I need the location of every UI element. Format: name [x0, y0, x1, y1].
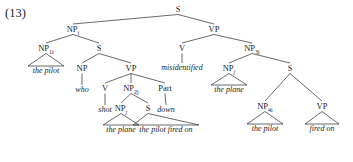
node-label-NP-1i: NP1i	[38, 44, 54, 55]
node-index: i	[78, 30, 80, 36]
node-label-VP-rel: VP	[126, 64, 137, 73]
node-label-V-shot: V	[102, 84, 108, 93]
node-label-NP-3j: NP3j	[244, 44, 260, 55]
node-category: S	[146, 103, 151, 113]
node-category: VP	[209, 24, 220, 34]
tree-branch	[252, 54, 290, 64]
leaf-leaf-the-pilot-1: the pilot	[33, 67, 59, 75]
tree-branch	[121, 94, 131, 104]
node-category: Part	[158, 83, 172, 93]
node-label-NP-j2: NPj	[115, 104, 128, 115]
leaf-leaf-the-pilot-2: the pilot	[252, 125, 278, 133]
node-label-VP-top: VP	[209, 25, 220, 34]
leaf-leaf-misidentified: misidentified	[161, 64, 202, 72]
tree-branch-canvas	[0, 0, 353, 162]
stem-lines	[82, 54, 182, 106]
node-label-S-root: S	[176, 5, 181, 14]
node-label-NP-j: NPj	[223, 64, 236, 75]
node-category: NP	[67, 24, 78, 34]
tree-branch	[73, 15, 178, 25]
leaf-leaf-the-pilot-fired-on: the pilot fired on	[139, 126, 192, 134]
tree-branch	[290, 74, 322, 102]
node-label-NP-i: NPi	[67, 25, 80, 36]
node-category: NP	[115, 103, 126, 113]
node-label-NP-4i: NP4i	[257, 102, 273, 113]
tree-branch	[229, 54, 252, 64]
tree-branch	[131, 74, 165, 84]
tree-branch	[214, 35, 252, 44]
leaf-leaf-fired-on: fired on	[310, 125, 335, 133]
leaf-leaf-down: down	[157, 106, 174, 114]
node-label-V-mis: V	[179, 44, 185, 53]
node-category: S	[97, 43, 102, 53]
node-label-S-rel: S	[97, 44, 102, 53]
node-category: NP	[244, 43, 255, 53]
node-index: j	[234, 69, 236, 75]
node-category: NP	[257, 101, 268, 111]
node-label-S-low: S	[288, 64, 293, 73]
node-category: V	[179, 43, 185, 53]
tree-branch	[131, 94, 148, 104]
node-category: S	[288, 63, 293, 73]
tree-branch	[105, 74, 131, 84]
node-category: VP	[317, 101, 328, 111]
leaf-leaf-the-plane-2: the plane	[214, 86, 244, 94]
tree-branch	[265, 74, 290, 102]
leaf-triangle	[133, 114, 199, 126]
node-category: NP	[223, 63, 234, 73]
node-index: j	[126, 109, 128, 115]
node-index: 4i	[268, 107, 273, 113]
tree-branch	[182, 35, 214, 44]
tree-branch	[178, 15, 214, 25]
node-category: VP	[126, 63, 137, 73]
leaf-triangle	[247, 112, 283, 125]
leaf-leaf-the-plane-1: the plane	[106, 126, 136, 134]
node-label-S-cp: S	[146, 104, 151, 113]
leaf-triangle	[28, 54, 64, 67]
node-category: S	[176, 4, 181, 14]
node-index: 2j	[134, 89, 139, 95]
node-category: V	[102, 83, 108, 93]
node-category: NP	[123, 83, 134, 93]
syntax-tree-figure: (13) SNPiVPNP1iSVNP3jNPVPNPjSVNP2jPartNP…	[0, 0, 353, 162]
node-index: 3j	[255, 49, 260, 55]
tree-branch	[99, 54, 131, 64]
leaf-leaf-who: who	[75, 86, 88, 94]
leaf-leaf-shot: shot	[98, 106, 111, 114]
node-label-NP-who: NP	[77, 64, 88, 73]
node-label-VP-low: VP	[317, 102, 328, 111]
tree-branch	[46, 35, 73, 44]
node-label-NP-2j: NP2j	[123, 84, 139, 95]
leaf-triangle	[103, 114, 139, 126]
tree-branch	[73, 35, 99, 44]
tree-branch	[82, 54, 99, 64]
tree-stem	[165, 94, 166, 106]
leaf-triangle	[211, 74, 247, 86]
node-label-Part: Part	[158, 84, 172, 93]
node-category: NP	[38, 43, 49, 53]
leaf-triangle	[305, 112, 339, 125]
node-category: NP	[77, 63, 88, 73]
node-index: 1i	[49, 49, 54, 55]
